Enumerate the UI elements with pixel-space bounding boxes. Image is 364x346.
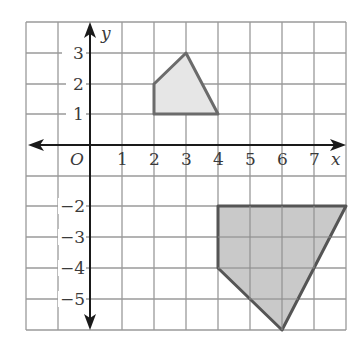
y-tick-2: 2 <box>73 74 84 94</box>
x-tick-2: 2 <box>149 149 160 169</box>
x-axis-label: x <box>331 149 341 169</box>
origin-label: O <box>70 149 84 169</box>
y-tick-1: 1 <box>73 104 84 124</box>
coordinate-plane: y x O 1 2 3 4 5 6 7 3 2 1 −2 −3 −4 −5 <box>0 0 364 346</box>
y-tick-neg5: −5 <box>60 289 85 309</box>
y-tick-neg3: −3 <box>60 227 85 247</box>
y-axis-label: y <box>100 23 111 43</box>
x-tick-6: 6 <box>277 149 288 169</box>
y-tick-neg4: −4 <box>60 258 85 278</box>
x-tick-3: 3 <box>181 149 192 169</box>
x-tick-1: 1 <box>117 149 128 169</box>
x-tick-4: 4 <box>213 149 224 169</box>
y-tick-neg2: −2 <box>60 196 85 216</box>
y-tick-3: 3 <box>73 43 84 63</box>
x-tick-7: 7 <box>309 149 320 169</box>
x-tick-5: 5 <box>245 149 256 169</box>
